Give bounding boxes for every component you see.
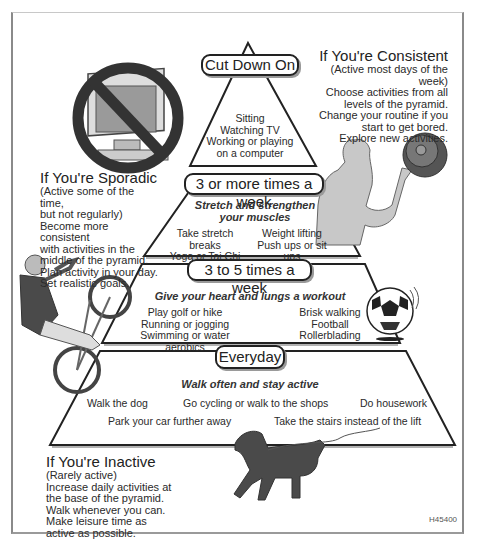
tier-3-to-5-right-list: Brisk walking Football Rollerblading: [295, 307, 365, 342]
activity: Sitting: [198, 113, 302, 125]
activity: Weight lifting: [252, 228, 332, 240]
tier-cut-down-activities: Sitting Watching TV Working or playing o…: [198, 113, 302, 159]
tier-3-plus-label: 3 or more times a week: [184, 173, 324, 195]
note-line: Change your routine if you: [300, 110, 448, 122]
note-line: (Rarely active): [46, 470, 176, 482]
figure-code: H45400: [429, 515, 457, 524]
activity: Do housework: [360, 398, 427, 410]
tier-3-plus-right-list: Weight lifting Push ups or sit ups: [252, 228, 332, 263]
weightlifter-illustration: [316, 133, 447, 245]
tier-everyday-label: Everyday: [215, 345, 285, 369]
no-computer-icon: [78, 68, 178, 168]
tier-3-plus-heading: Stretch and strengthen your muscles: [180, 199, 330, 223]
note-line: Explore new activities.: [300, 133, 448, 145]
note-title: If You're Inactive: [46, 454, 176, 470]
activity: Brisk walking: [295, 307, 365, 319]
tier-cut-down-label: Cut Down On: [201, 54, 299, 76]
heading-line: your muscles: [180, 211, 330, 223]
note-line: active as possible.: [46, 528, 176, 540]
activity: on a computer: [198, 148, 302, 160]
activity: Walk the dog: [87, 398, 148, 410]
activity: Rollerblading: [295, 330, 365, 342]
activity: Play golf or hike: [120, 307, 250, 319]
tier-3-to-5-label: 3 to 5 times a week: [187, 259, 312, 281]
note-line: (Active some of the time,: [40, 186, 160, 209]
note-line: Become more consistent: [40, 221, 160, 244]
activity: Park your car further away: [108, 416, 231, 428]
note-line: but not regularly): [40, 209, 160, 221]
note-consistent: If You're Consistent (Active most days o…: [300, 48, 448, 145]
note-inactive: If You're Inactive (Rarely active) Incre…: [46, 454, 176, 539]
tier-3-to-5-heading: Give your heart and lungs a workout: [150, 290, 350, 302]
note-line: the base of the pyramid.: [46, 493, 176, 505]
note-line: Make leisure time as: [46, 516, 176, 528]
activity: Go cycling or walk to the shops: [183, 398, 328, 410]
note-sporadic: If You're Sporadic (Active some of the t…: [40, 170, 160, 290]
heading-line: Stretch and strengthen: [180, 199, 330, 211]
note-title: If You're Sporadic: [40, 170, 160, 186]
tier-3-plus-left-list: Take stretch breaks Yoga or Tai Chi: [160, 228, 250, 263]
note-line: Choose activities from all: [300, 87, 448, 99]
note-line: (Active most days of the week): [300, 64, 448, 87]
note-title: If You're Consistent: [300, 48, 448, 64]
activity: Take the stairs instead of the lift: [274, 416, 421, 428]
activity: Working or playing: [198, 136, 302, 148]
tier-everyday-heading: Walk often and stay active: [170, 378, 330, 390]
note-line: middle of the pyramid.: [40, 255, 160, 267]
note-line: Set realistic goals.: [40, 278, 160, 290]
activity: Take stretch breaks: [160, 228, 250, 251]
